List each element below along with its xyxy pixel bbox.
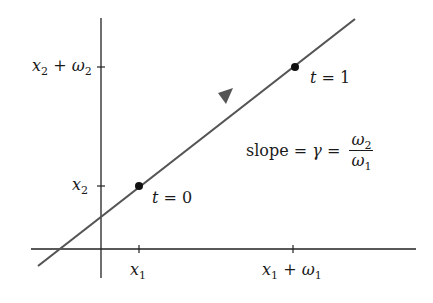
den-var: ω [351, 151, 364, 170]
num-var: ω [351, 130, 364, 149]
var: x [262, 260, 271, 279]
point-t0 [135, 182, 143, 190]
sub2: 1 [315, 269, 322, 282]
sub: 1 [271, 269, 278, 282]
t-eq: = 0 [158, 188, 192, 207]
diagram-canvas: x2 + ω2 x2 x1 x1 + ω1 t = 0 t = 1 slope … [0, 0, 433, 303]
sub: 2 [81, 184, 88, 197]
label-t0: t = 0 [152, 190, 192, 206]
equals: = [322, 143, 346, 159]
y-label-x2-plus-w2: x2 + ω2 [32, 58, 92, 74]
var: x [130, 260, 139, 279]
sub: 1 [139, 269, 146, 282]
point-t1 [291, 63, 299, 71]
denominator: ω1 [349, 151, 373, 169]
x-label-x1-plus-w1: x1 + ω1 [262, 262, 322, 278]
op: + [53, 56, 66, 75]
var: x [72, 175, 81, 194]
var2: ω [72, 56, 85, 75]
op: + [283, 260, 296, 279]
gamma: γ [312, 143, 322, 159]
den-sub: 1 [364, 160, 371, 173]
t-eq: = 1 [316, 68, 350, 87]
numerator: ω2 [349, 132, 373, 151]
slope-fraction: ω2 ω1 [349, 132, 373, 169]
direction-arrow-icon [218, 88, 233, 104]
sub2: 2 [85, 65, 92, 78]
sub: 2 [41, 65, 48, 78]
slope-word: slope = [246, 143, 312, 159]
slope-annotation: slope = γ = ω2 ω1 [246, 132, 373, 169]
var2: ω [302, 260, 315, 279]
label-t1: t = 1 [310, 70, 350, 86]
y-label-x2: x2 [72, 177, 88, 193]
x-label-x1: x1 [130, 262, 146, 278]
var: x [32, 56, 41, 75]
